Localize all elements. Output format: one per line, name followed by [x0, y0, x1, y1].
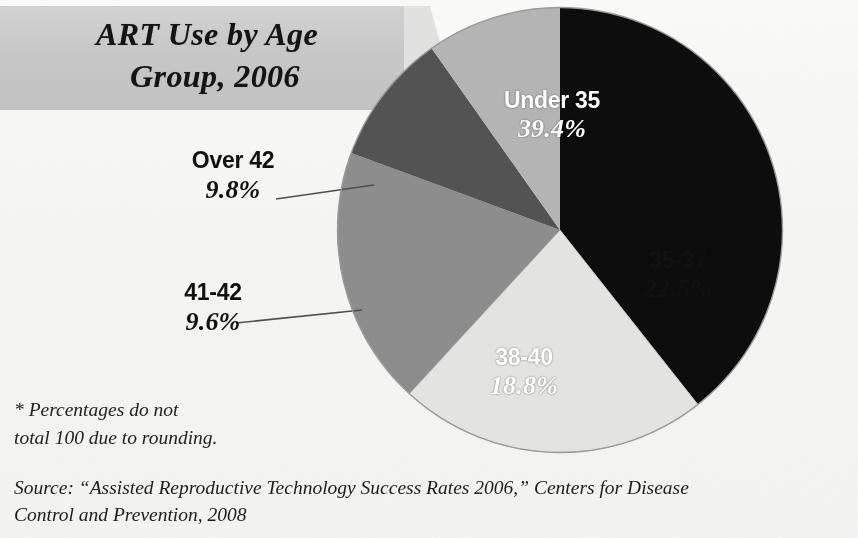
callout-value-over-42: 9.8% — [148, 176, 318, 204]
slice-label-35-37: 35-37 22.5% — [598, 248, 758, 303]
callout-label-over-42: Over 42 9.8% — [148, 148, 318, 204]
callout-name-over-42: Over 42 — [148, 148, 318, 172]
callout-value-41-42: 9.6% — [128, 308, 298, 336]
footnote-line-1: * Percentages do not — [14, 396, 344, 424]
title-line-2: Group, 2006 — [12, 56, 402, 98]
slice-name-under-35: Under 35 — [452, 88, 652, 112]
slice-label-38-40: 38-40 18.8% — [444, 345, 604, 400]
slice-name-38-40: 38-40 — [444, 345, 604, 369]
source-citation: Source: “Assisted Reproductive Technolog… — [14, 474, 850, 529]
footnote: * Percentages do not total 100 due to ro… — [14, 396, 344, 451]
source-line-1: Source: “Assisted Reproductive Technolog… — [14, 474, 850, 501]
slice-label-under-35: Under 35 39.4% — [452, 88, 652, 143]
slice-name-35-37: 35-37 — [598, 248, 758, 272]
callout-name-41-42: 41-42 — [128, 280, 298, 304]
title-line-1: ART Use by Age — [12, 14, 402, 56]
slice-value-38-40: 18.8% — [444, 372, 604, 400]
source-line-2: Control and Prevention, 2008 — [14, 501, 850, 528]
page-title: ART Use by Age Group, 2006 — [12, 14, 402, 97]
slice-value-under-35: 39.4% — [452, 115, 652, 143]
footnote-line-2: total 100 due to rounding. — [14, 424, 344, 452]
callout-label-41-42: 41-42 9.6% — [128, 280, 298, 336]
chart-page: ART Use by Age Group, 2006 Under 35 39.4… — [0, 0, 858, 538]
slice-value-35-37: 22.5% — [598, 275, 758, 303]
